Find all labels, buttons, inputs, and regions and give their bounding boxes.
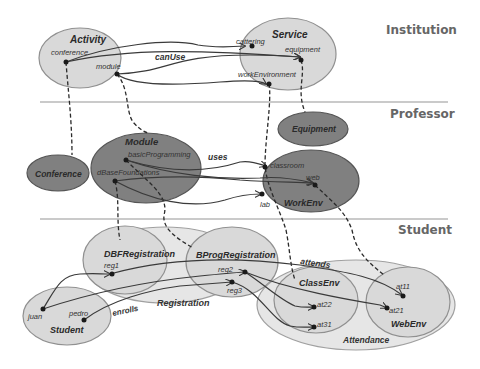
webenv-item-at11: at11 [396,282,410,291]
webenv-item-at21: at21 [389,306,404,315]
classenv-item-at31: at31 [317,320,332,329]
dot-conference [64,60,69,65]
dot-module [115,72,120,77]
workenv-title: WorkEnv [284,198,324,208]
dot-classroom [263,165,268,170]
activity-item-module: module [96,62,121,71]
equipment-title: Equipment [292,124,337,134]
edge-label-uses: uses [208,152,228,162]
module-item-dbasefoundations: dBaseFoundations [97,168,160,177]
dot-at21 [385,306,390,311]
dot-web [313,183,318,188]
dot-juan [41,307,46,312]
dot-lab [260,192,265,197]
activity-title: Activity [69,34,107,45]
bprogregistration-item-reg3: reg3 [227,286,243,295]
node-classenv[interactable] [274,267,358,333]
conference-title: Conference [35,169,82,179]
bprogregistration-title: BProgRegistration [196,250,276,260]
workenv-item-web: web [306,173,320,182]
workenv-item-lab: lab [260,200,270,209]
student-item-pedro: pedro [68,309,88,318]
layered-diagram: Institution Professor Student Activity c… [0,0,480,369]
dot-at22 [312,305,317,310]
dbfregistration-item-reg1: reg1 [104,261,119,270]
module-title: Module [125,136,159,147]
edge-label-enrolls: enrolls [112,304,140,318]
node-dbfregistration[interactable] [83,226,167,294]
service-item-equipment: equipment [285,45,321,54]
layer-label-student: Student [398,223,452,237]
layer-label-professor: Professor [390,107,455,121]
dot-basicprogramming [124,158,129,163]
dot-workenvironment [267,82,272,87]
edge-label-canuse: canUse [155,52,186,62]
workenv-item-classroom: classroom [270,161,304,170]
dot-reg1 [110,272,115,277]
dot-reg3 [230,280,235,285]
dbfregistration-title: DBFRegistration [104,249,176,259]
registration-title: Registration [157,298,210,308]
student-item-juan: juan [27,312,42,321]
classenv-title: ClassEnv [299,278,341,288]
dot-dbasefoundations [113,179,118,184]
dot-at31 [312,325,317,330]
dot-at11 [401,294,406,299]
module-item-basicprogramming: basicProgramming [128,150,191,159]
attendance-title: Attendance [342,335,390,345]
dot-pedro [82,318,87,323]
classenv-item-at22: at22 [317,300,332,309]
dot-cattering [250,44,255,49]
service-item-workenvironment: workEnvironment [238,70,297,79]
layer-label-institution: Institution [386,23,457,37]
webenv-title: WebEnv [391,319,427,329]
dot-reg2 [243,270,248,275]
student-title: Student [50,325,84,335]
service-title: Service [272,29,308,40]
dot-equipment [299,58,304,63]
